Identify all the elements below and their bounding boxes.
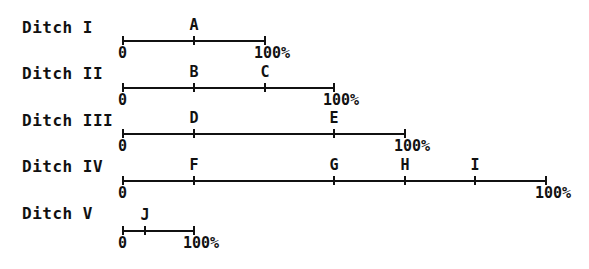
marker-label-f: F <box>189 156 198 174</box>
marker-label-b: B <box>189 63 198 81</box>
marker-label-i: I <box>470 156 479 174</box>
ditch-label: Ditch II <box>22 64 103 83</box>
marker-tick <box>193 36 195 45</box>
marker-label-d: D <box>189 109 198 127</box>
scale-100-label: 100% <box>535 184 571 202</box>
scale-zero-label: 0 <box>118 234 127 252</box>
marker-tick <box>193 83 195 92</box>
ditch-label: Ditch III <box>22 111 113 130</box>
marker-tick <box>264 83 266 92</box>
marker-label-e: E <box>329 109 338 127</box>
ditch-label: Ditch V <box>22 204 93 223</box>
ditch-label: Ditch I <box>22 18 93 37</box>
marker-label-g: G <box>329 156 338 174</box>
scale-zero-label: 0 <box>118 91 127 109</box>
scale-100-label: 100% <box>394 137 430 155</box>
marker-label-a: A <box>189 16 198 34</box>
marker-tick <box>333 176 335 185</box>
marker-tick <box>193 176 195 185</box>
axis-line <box>122 87 335 89</box>
marker-tick <box>474 176 476 185</box>
axis-line <box>122 230 195 232</box>
scale-zero-label: 0 <box>118 44 127 62</box>
ditch-label: Ditch IV <box>22 157 103 176</box>
marker-label-c: C <box>260 63 269 81</box>
scale-100-label: 100% <box>323 91 359 109</box>
scale-zero-label: 0 <box>118 137 127 155</box>
marker-tick <box>193 129 195 138</box>
scale-100-label: 100% <box>183 234 219 252</box>
marker-tick <box>404 176 406 185</box>
scale-zero-label: 0 <box>118 184 127 202</box>
marker-tick <box>144 226 146 235</box>
marker-label-h: H <box>400 156 409 174</box>
axis-line <box>122 133 406 135</box>
scale-100-label: 100% <box>254 44 290 62</box>
marker-tick <box>333 129 335 138</box>
marker-label-j: J <box>140 206 149 224</box>
